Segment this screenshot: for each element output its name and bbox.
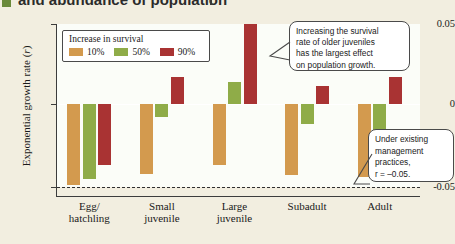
- legend-items: 10%50%90%: [69, 47, 203, 57]
- page-title-strip: and abundance of population: [0, 0, 455, 9]
- y-axis-line: [56, 24, 57, 197]
- legend-item-label: 10%: [87, 47, 104, 57]
- legend-item-50pct[interactable]: 50%: [114, 47, 149, 57]
- callout-baseline: Under existingmanagementpractices,r = –0…: [368, 129, 454, 182]
- title-divider: [210, 0, 212, 5]
- bar-3-10pct: [213, 104, 226, 165]
- bar-1-50pct: [83, 104, 96, 179]
- legend-title: Increase in survival: [69, 34, 203, 45]
- y-tick-mark-top: [51, 24, 56, 25]
- bar-1-10pct: [67, 104, 80, 185]
- bar-2-50pct: [155, 104, 168, 117]
- page-title: and abundance of population: [18, 0, 227, 8]
- callout-line: on population growth.: [296, 60, 403, 71]
- bar-3-90pct: [244, 24, 257, 104]
- callout-line: practices,: [375, 157, 447, 169]
- x-axis-category-label-line: Adult: [335, 200, 425, 212]
- y-axis-title: Exponential growth rate (r): [20, 16, 32, 196]
- x-axis-category-label-5: Adult: [335, 200, 425, 212]
- bar-1-90pct: [98, 104, 111, 165]
- bar-4-10pct: [285, 104, 298, 175]
- legend-item-10pct[interactable]: 10%: [69, 47, 104, 57]
- callout-line: has the largest effect: [296, 48, 403, 59]
- legend-item-label: 50%: [132, 47, 149, 57]
- legend-item-label: 90%: [178, 47, 195, 57]
- bar-4-50pct: [301, 104, 314, 124]
- callout-older-juveniles-pointer: [268, 40, 294, 66]
- y-tick-mark-zero: [51, 104, 56, 105]
- bar-5-90pct: [389, 77, 402, 104]
- x-axis-line: [56, 196, 420, 197]
- bar-3-50pct: [228, 82, 241, 104]
- title-bullet-icon: [2, 0, 11, 7]
- legend-swatch-icon: [69, 48, 83, 56]
- callout-line: Under existing: [375, 134, 447, 146]
- y-axis-variable-symbol: r: [20, 49, 32, 53]
- bar-4-90pct: [316, 86, 329, 104]
- legend-swatch-icon: [160, 48, 174, 56]
- legend-swatch-icon: [114, 48, 128, 56]
- callout-older-juveniles: Increasing the survivalrate of older juv…: [289, 21, 410, 71]
- callout-line: r = –0.05.: [375, 169, 447, 181]
- callout-line: rate of older juveniles: [296, 37, 403, 48]
- legend: Increase in survival 10%50%90%: [62, 30, 210, 62]
- y-tick-label-top: 0.05: [409, 19, 455, 29]
- bar-2-10pct: [140, 104, 153, 174]
- x-axis-category-label-line: juvenile: [190, 212, 280, 224]
- callout-line: Increasing the survival: [296, 26, 403, 37]
- bar-2-90pct: [171, 77, 184, 104]
- callout-baseline-pointer: [348, 150, 376, 190]
- legend-item-90pct[interactable]: 90%: [160, 47, 195, 57]
- y-tick-mark-bottom: [51, 187, 56, 188]
- callout-line: management: [375, 146, 447, 158]
